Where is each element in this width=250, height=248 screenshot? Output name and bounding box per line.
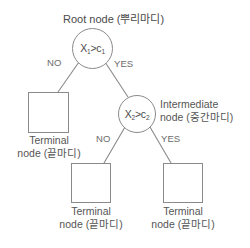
root-node-condition: X1>c1	[80, 43, 105, 54]
terminal-node-middle-box[interactable]	[71, 163, 111, 203]
terminal-node-right-label: Terminal node (끝마디)	[137, 205, 229, 231]
decision-tree-diagram: Root node (뿌리마디) X1>c1 NO YES Terminal n…	[0, 0, 250, 248]
branch-label-intermediate-yes: YES	[161, 133, 180, 144]
branch-label-root-no: NO	[47, 57, 61, 68]
intermediate-node-circle[interactable]: X2>c2	[118, 95, 156, 133]
terminal-node-right-box[interactable]	[163, 163, 203, 203]
root-variable: X	[80, 42, 87, 54]
terminal-node-left-box[interactable]	[28, 92, 69, 133]
terminal-node-left-label: Terminal node (끝마디)	[3, 134, 95, 160]
root-variable-subscript: 1	[87, 48, 90, 55]
branch-label-intermediate-no: NO	[96, 133, 110, 144]
intermediate-node-condition: X2>c2	[125, 109, 150, 120]
intermediate-threshold-subscript: 2	[146, 114, 149, 121]
branch-label-root-yes: YES	[114, 58, 133, 69]
intermediate-node-title: Intermediate node (중간마디)	[160, 98, 250, 124]
root-node-circle[interactable]: X1>c1	[72, 28, 113, 69]
root-threshold-subscript: 1	[101, 48, 104, 55]
terminal-node-middle-label: Terminal node (끝마디)	[45, 205, 137, 231]
intermediate-variable-subscript: 2	[131, 114, 134, 121]
root-node-title: Root node (뿌리마디)	[63, 10, 164, 26]
